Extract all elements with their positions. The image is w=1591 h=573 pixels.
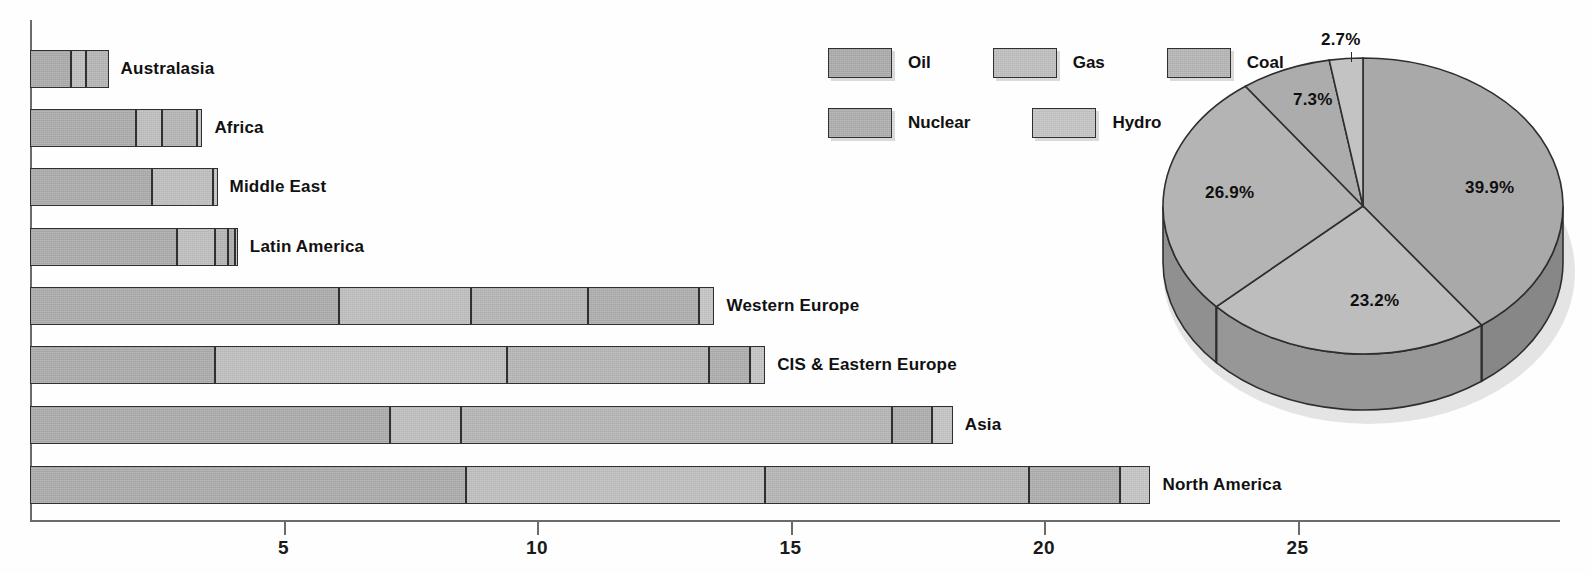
bar-segment-gas[interactable] bbox=[177, 228, 215, 266]
bar-segment-coal[interactable] bbox=[86, 50, 109, 88]
chart-canvas: 510152025 AustralasiaAfricaMiddle EastLa… bbox=[0, 0, 1591, 573]
bar-segment-nuclear[interactable] bbox=[892, 406, 933, 444]
pie-value-label-gas: 23.2% bbox=[1350, 291, 1399, 311]
bar-segment-hydro[interactable] bbox=[750, 346, 765, 384]
bar-segment-oil[interactable] bbox=[30, 168, 152, 206]
pie-svg bbox=[1135, 8, 1591, 448]
bar-segment-hydro[interactable] bbox=[932, 406, 952, 444]
bar-segment-gas[interactable] bbox=[339, 287, 471, 325]
legend-label-gas: Gas bbox=[1073, 53, 1105, 73]
legend-item-nuclear[interactable]: Nuclear bbox=[828, 108, 970, 138]
bar-segment-hydro[interactable] bbox=[1120, 466, 1150, 504]
legend-swatch-oil bbox=[828, 48, 892, 78]
x-tick-10 bbox=[537, 521, 539, 535]
bar-segment-coal[interactable] bbox=[162, 109, 197, 147]
bar-segment-coal[interactable] bbox=[507, 346, 710, 384]
bar-category-label: CIS & Eastern Europe bbox=[777, 346, 957, 384]
x-axis-line bbox=[30, 520, 1560, 522]
bar-segment-oil[interactable] bbox=[30, 228, 177, 266]
bar-segment-nuclear[interactable] bbox=[709, 346, 750, 384]
legend-label-oil: Oil bbox=[908, 53, 931, 73]
bar-category-label: Africa bbox=[214, 109, 263, 147]
bar-category-label: Middle East bbox=[230, 168, 327, 206]
bar-segment-oil[interactable] bbox=[30, 109, 136, 147]
x-tick-label: 15 bbox=[779, 537, 801, 559]
bar-segment-coal[interactable] bbox=[765, 466, 1029, 504]
bar-segment-gas[interactable] bbox=[152, 168, 213, 206]
bar-segment-hydro[interactable] bbox=[213, 168, 218, 206]
bar-segment-gas[interactable] bbox=[390, 406, 461, 444]
bar-category-label: Asia bbox=[965, 406, 1002, 444]
x-tick-25 bbox=[1298, 521, 1300, 535]
x-tick-label: 25 bbox=[1286, 537, 1308, 559]
legend-item-gas[interactable]: Gas bbox=[993, 48, 1105, 78]
x-tick-label: 10 bbox=[526, 537, 548, 559]
bar-segment-gas[interactable] bbox=[466, 466, 765, 504]
y-axis-line bbox=[30, 20, 32, 520]
bar-segment-gas[interactable] bbox=[136, 109, 161, 147]
bar-segment-coal[interactable] bbox=[215, 228, 228, 266]
bar-segment-hydro[interactable] bbox=[235, 228, 238, 266]
bar-segment-oil[interactable] bbox=[30, 346, 215, 384]
legend-label-nuclear: Nuclear bbox=[908, 113, 970, 133]
bar-segment-gas[interactable] bbox=[71, 50, 86, 88]
bar-segment-gas[interactable] bbox=[215, 346, 507, 384]
legend-swatch-nuclear bbox=[828, 108, 892, 138]
pie-chart: 39.9%23.2%26.9%7.3%2.7% bbox=[1135, 8, 1591, 448]
x-tick-20 bbox=[1044, 521, 1046, 535]
bar-category-label: Australasia bbox=[121, 50, 215, 88]
bar-segment-oil[interactable] bbox=[30, 406, 390, 444]
bar-category-label: Latin America bbox=[250, 228, 364, 266]
x-tick-15 bbox=[791, 521, 793, 535]
bar-segment-nuclear[interactable] bbox=[228, 228, 236, 266]
x-tick-label: 20 bbox=[1033, 537, 1055, 559]
legend-swatch-hydro bbox=[1032, 108, 1096, 138]
bar-row[interactable]: North America bbox=[0, 466, 1340, 504]
bar-segment-nuclear[interactable] bbox=[1029, 466, 1120, 504]
pie-value-label-hydro: 2.7% bbox=[1321, 30, 1361, 50]
pie-leader-line bbox=[1351, 52, 1352, 62]
bar-segment-hydro[interactable] bbox=[699, 287, 714, 325]
bar-category-label: Western Europe bbox=[726, 287, 859, 325]
bar-category-label: North America bbox=[1162, 466, 1281, 504]
x-tick-label: 5 bbox=[278, 537, 289, 559]
bar-segment-oil[interactable] bbox=[30, 287, 339, 325]
legend-swatch-gas bbox=[993, 48, 1057, 78]
pie-value-label-oil: 39.9% bbox=[1465, 178, 1514, 198]
pie-value-label-coal: 26.9% bbox=[1205, 183, 1254, 203]
bar-segment-oil[interactable] bbox=[30, 466, 466, 504]
bar-segment-coal[interactable] bbox=[471, 287, 588, 325]
bar-segment-oil[interactable] bbox=[30, 50, 71, 88]
bar-segment-nuclear[interactable] bbox=[588, 287, 700, 325]
bar-segment-coal[interactable] bbox=[461, 406, 892, 444]
bar-segment-hydro[interactable] bbox=[197, 109, 202, 147]
pie-value-label-nuclear: 7.3% bbox=[1293, 90, 1333, 110]
legend-item-oil[interactable]: Oil bbox=[828, 48, 931, 78]
x-tick-5 bbox=[284, 521, 286, 535]
